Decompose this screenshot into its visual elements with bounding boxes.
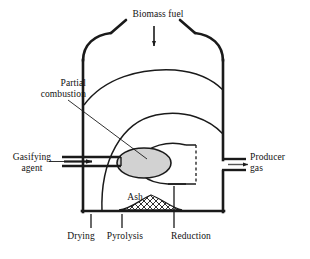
gasifier-diagram: Biomass fuel Partial combustion Gasifyin… — [0, 0, 310, 259]
hopper-flap-left — [111, 20, 126, 33]
hopper-flap-right — [180, 20, 195, 33]
zone-arc-drying — [84, 70, 223, 105]
label-ash: Ash — [122, 192, 148, 203]
partial-combustion-leader — [68, 100, 147, 159]
vessel-dome-right — [195, 33, 223, 61]
label-producer-gas: Producer gas — [250, 152, 308, 174]
vessel-dome-left — [83, 33, 111, 61]
label-zone-pyrolysis: Pyrolysis — [101, 231, 149, 242]
label-zone-reduction: Reduction — [165, 231, 217, 242]
gasifier-schematic-svg — [0, 0, 310, 259]
label-biomass-fuel: Biomass fuel — [113, 9, 203, 20]
label-zone-drying: Drying — [61, 231, 101, 242]
label-partial-combustion: Partial combustion — [8, 78, 86, 100]
label-gasifying-agent: Gasifying agent — [2, 152, 62, 174]
partial-combustion-zone — [117, 148, 171, 178]
